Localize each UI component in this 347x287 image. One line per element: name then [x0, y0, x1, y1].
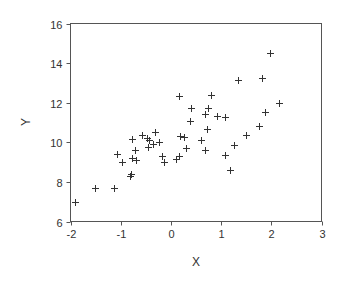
plus-marker	[181, 134, 188, 141]
plus-marker	[276, 100, 283, 107]
plus-marker	[188, 105, 195, 112]
x-tick-label: 2	[268, 228, 274, 240]
plus-marker	[208, 92, 215, 99]
y-tick-label: 8	[56, 177, 62, 189]
plus-marker	[161, 159, 168, 166]
plus-marker	[187, 118, 194, 125]
plus-marker	[177, 133, 184, 140]
x-axis-title: X	[192, 255, 200, 269]
plus-marker	[267, 50, 274, 57]
y-tick-label: 6	[56, 217, 62, 229]
plus-marker	[202, 147, 209, 154]
plus-marker	[129, 136, 136, 143]
data-points	[72, 50, 283, 206]
plus-marker	[262, 109, 269, 116]
plus-marker	[139, 132, 146, 139]
y-axis-title: Y	[19, 118, 33, 126]
plus-marker	[159, 153, 166, 160]
plus-marker	[214, 113, 221, 120]
y-tick-label: 10	[50, 137, 62, 149]
plus-marker	[198, 137, 205, 144]
y-tick-label: 14	[50, 58, 62, 70]
plus-marker	[72, 199, 79, 206]
plus-marker	[111, 185, 118, 192]
plus-marker	[222, 152, 229, 159]
plus-marker	[227, 167, 234, 174]
scatter-plot: -2-10123 6810121416 X Y	[0, 0, 347, 287]
y-tick-label: 12	[50, 98, 62, 110]
plus-marker	[259, 75, 266, 82]
plot-frame	[71, 24, 322, 222]
plus-marker	[204, 126, 211, 133]
x-tick-label: -2	[67, 228, 77, 240]
plus-marker	[119, 159, 126, 166]
y-tick-label: 16	[50, 19, 62, 31]
plus-marker	[145, 144, 152, 151]
x-tick-label: 0	[168, 228, 174, 240]
plus-marker	[114, 151, 121, 158]
plus-marker	[183, 145, 190, 152]
x-axis-ticks: -2-10123	[67, 222, 326, 240]
plus-marker	[231, 142, 238, 149]
plus-marker	[205, 105, 212, 112]
plus-marker	[202, 111, 209, 118]
plus-marker	[173, 156, 180, 163]
x-tick-label: 1	[218, 228, 224, 240]
plus-marker	[132, 147, 139, 154]
plus-marker	[176, 93, 183, 100]
plus-marker	[152, 129, 159, 136]
x-tick-label: 3	[319, 228, 325, 240]
plus-marker	[235, 77, 242, 84]
plus-marker	[150, 141, 157, 148]
plus-marker	[243, 132, 250, 139]
plus-marker	[92, 185, 99, 192]
plus-marker	[222, 114, 229, 121]
plus-marker	[176, 153, 183, 160]
y-axis-ticks: 6810121416	[50, 19, 70, 229]
x-tick-label: -1	[117, 228, 127, 240]
plus-marker	[256, 123, 263, 130]
plus-marker	[156, 139, 163, 146]
